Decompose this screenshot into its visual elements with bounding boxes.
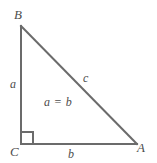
relation-annotation: a = b bbox=[44, 96, 72, 108]
side-label-c: c bbox=[83, 72, 88, 84]
triangle-side-c-line bbox=[21, 26, 137, 144]
side-label-b: b bbox=[68, 148, 74, 160]
vertex-label-a: A bbox=[137, 141, 145, 154]
triangle-drawing bbox=[0, 0, 157, 163]
right-angle-marker-icon bbox=[21, 132, 33, 144]
geometry-figure: B C A a b c a = b bbox=[0, 0, 157, 163]
vertex-label-c: C bbox=[10, 145, 19, 158]
side-label-a: a bbox=[10, 78, 16, 90]
vertex-label-b: B bbox=[14, 8, 22, 21]
